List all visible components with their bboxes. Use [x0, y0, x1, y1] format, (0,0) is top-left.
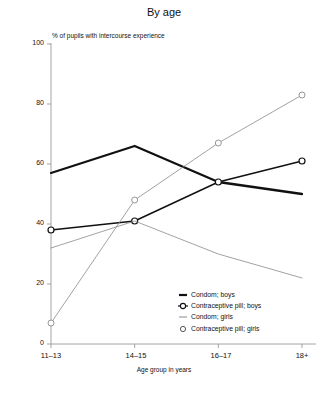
legend-item-condom-boys: Condom; boys	[178, 289, 261, 300]
chart-container: By age % of pupils with intercourse expe…	[0, 0, 328, 393]
circle-icon	[178, 323, 191, 334]
circle-dash-icon	[178, 300, 191, 311]
legend-label-condom-girls: Condom; girls	[191, 311, 233, 322]
legend-item-pill-girls: Contraceptive pill; girls	[178, 323, 261, 334]
legend-label-condom-boys: Condom; boys	[191, 289, 235, 300]
thick-dash-icon	[178, 289, 191, 300]
legend-label-pill-girls: Contraceptive pill; girls	[191, 323, 259, 334]
chart-legend: Condom; boys Contraceptive pill; boys Co…	[178, 289, 261, 334]
plot-area	[0, 0, 328, 393]
legend-item-pill-boys: Contraceptive pill; boys	[178, 300, 261, 311]
thin-dash-icon	[178, 311, 191, 322]
legend-item-condom-girls: Condom; girls	[178, 311, 261, 322]
legend-label-pill-boys: Contraceptive pill; boys	[191, 300, 261, 311]
